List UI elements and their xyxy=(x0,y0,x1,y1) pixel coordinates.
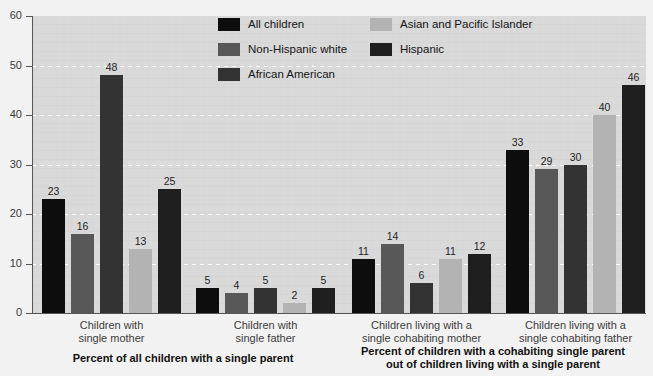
legend-item: All children xyxy=(218,18,304,31)
y-tick-label-0: 0 xyxy=(0,307,22,318)
bar xyxy=(254,288,277,313)
group-label-2: Children living with a single cohabiting… xyxy=(342,319,502,344)
legend-swatch xyxy=(218,68,240,81)
bar xyxy=(381,244,404,313)
group-label-1: Children with single father xyxy=(186,319,346,344)
bar-value-label: 13 xyxy=(123,236,158,247)
legend-label: African American xyxy=(248,68,335,81)
legend-label: All children xyxy=(248,18,304,31)
bar xyxy=(312,288,335,313)
bar-value-label: 16 xyxy=(65,221,100,232)
legend-item: African American xyxy=(218,68,335,81)
legend-label: Non-Hispanic white xyxy=(248,43,347,56)
bar xyxy=(622,85,645,313)
bar-value-label: 11 xyxy=(346,246,381,257)
bar xyxy=(196,288,219,313)
x-axis-line xyxy=(32,313,646,314)
bar-value-label: 12 xyxy=(462,241,497,252)
legend-swatch xyxy=(218,43,240,56)
y-tick-label-40: 40 xyxy=(0,109,22,120)
bar xyxy=(506,150,529,313)
bar xyxy=(439,259,462,313)
bar-value-label: 46 xyxy=(616,72,651,83)
legend-item: Asian and Pacific Islander xyxy=(370,18,532,31)
bar xyxy=(410,283,433,313)
bar xyxy=(564,165,587,314)
y-tick-mark-60 xyxy=(26,16,32,17)
y-axis-line xyxy=(32,16,33,314)
chart-root: 0102030405060 23164813255452511146111233… xyxy=(0,0,653,376)
bar xyxy=(42,199,65,313)
y-tick-mark-40 xyxy=(26,115,32,116)
y-tick-label-20: 20 xyxy=(0,208,22,219)
bar xyxy=(158,189,181,313)
bar-value-label: 2 xyxy=(277,290,312,301)
legend-label: Asian and Pacific Islander xyxy=(400,18,532,31)
legend-item: Hispanic xyxy=(370,43,444,56)
bar xyxy=(129,249,152,313)
bar-value-label: 23 xyxy=(36,186,71,197)
bar-value-label: 30 xyxy=(558,152,593,163)
legend-swatch xyxy=(370,18,392,31)
bar-value-label: 48 xyxy=(94,62,129,73)
legend-label: Hispanic xyxy=(400,43,444,56)
section-caption-right: Percent of children with a cohabiting si… xyxy=(340,345,646,370)
bar-value-label: 5 xyxy=(306,275,341,286)
legend-swatch xyxy=(218,18,240,31)
bar-value-label: 25 xyxy=(152,176,187,187)
bar-value-label: 33 xyxy=(500,137,535,148)
bar-value-label: 14 xyxy=(375,231,410,242)
y-tick-mark-0 xyxy=(26,313,32,314)
bar xyxy=(468,254,491,313)
legend-item: Non-Hispanic white xyxy=(218,43,347,56)
gridline-40 xyxy=(32,115,646,116)
bar-value-label: 5 xyxy=(248,275,283,286)
bar xyxy=(100,75,123,313)
y-tick-label-50: 50 xyxy=(0,60,22,71)
y-tick-mark-30 xyxy=(26,165,32,166)
bar xyxy=(593,115,616,313)
y-tick-mark-50 xyxy=(26,66,32,67)
bar-value-label: 40 xyxy=(587,102,622,113)
legend-swatch xyxy=(370,43,392,56)
y-tick-label-30: 30 xyxy=(0,159,22,170)
legend: All childrenNon-Hispanic whiteAfrican Am… xyxy=(218,18,518,90)
bar xyxy=(71,234,94,313)
bar xyxy=(535,169,558,313)
group-label-3: Children living with a single cohabiting… xyxy=(496,319,653,344)
y-tick-label-60: 60 xyxy=(0,10,22,21)
bar xyxy=(283,303,306,313)
y-tick-label-10: 10 xyxy=(0,258,22,269)
bar xyxy=(225,293,248,313)
bar-value-label: 6 xyxy=(404,270,439,281)
y-tick-mark-10 xyxy=(26,264,32,265)
group-label-0: Children with single mother xyxy=(32,319,192,344)
section-caption-left: Percent of all children with a single pa… xyxy=(18,352,348,365)
bar xyxy=(352,259,375,313)
y-tick-mark-20 xyxy=(26,214,32,215)
